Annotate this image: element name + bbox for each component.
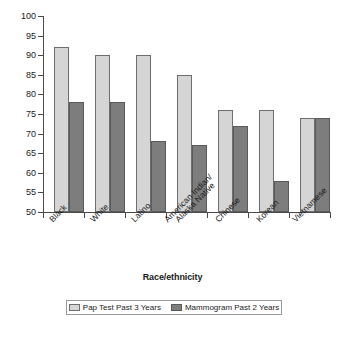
y-tick-label: 70 bbox=[26, 129, 36, 138]
bar-pap-black bbox=[54, 47, 69, 212]
y-tick-label: 85 bbox=[26, 70, 36, 79]
y-tick-label: 60 bbox=[26, 168, 36, 177]
y-tick-label: 55 bbox=[26, 188, 36, 197]
bar-mammogram-white bbox=[110, 102, 125, 212]
chart-legend: Pap Test Past 3 Years Mammogram Past 2 Y… bbox=[66, 300, 282, 315]
legend-item-mammogram: Mammogram Past 2 Years bbox=[171, 303, 279, 312]
legend-swatch-icon bbox=[171, 304, 182, 311]
legend-swatch-icon bbox=[69, 304, 80, 311]
y-axis-line bbox=[43, 16, 44, 213]
legend-label-pap-test: Pap Test Past 3 Years bbox=[83, 303, 161, 312]
y-tick-label: 80 bbox=[26, 90, 36, 99]
bar-pap-korean bbox=[259, 110, 274, 212]
legend-item-pap-test: Pap Test Past 3 Years bbox=[69, 303, 161, 312]
y-tick-label: 75 bbox=[26, 110, 36, 119]
bar-pap-white bbox=[95, 55, 110, 212]
legend-label-mammogram: Mammogram Past 2 Years bbox=[185, 303, 279, 312]
y-tick-label: 100 bbox=[21, 12, 36, 21]
y-tick-label: 95 bbox=[26, 31, 36, 40]
bar-pap-latino bbox=[136, 55, 151, 212]
y-tick-label: 90 bbox=[26, 51, 36, 60]
y-tick-label: 65 bbox=[26, 149, 36, 158]
bar-chart: 100 95 90 85 80 75 70 65 bbox=[0, 0, 345, 337]
bar-pap-chinese bbox=[218, 110, 233, 212]
plot-area: 100 95 90 85 80 75 70 65 bbox=[43, 16, 331, 213]
bar-mammogram-black bbox=[69, 102, 84, 212]
x-axis-category-labels: Black White Latino American Indian/ Alas… bbox=[43, 213, 343, 273]
y-tick-label: 50 bbox=[26, 208, 36, 217]
x-axis-title: Race/ethnicity bbox=[0, 272, 345, 282]
bar-mammogram-latino bbox=[151, 141, 166, 212]
